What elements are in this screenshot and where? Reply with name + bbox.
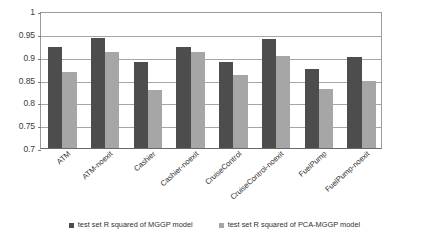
bar (319, 89, 333, 148)
bar (305, 69, 319, 148)
legend-label: test set R squared of MGGP model (78, 221, 193, 228)
x-axis-label: ATM (55, 150, 71, 166)
square-marker-dark (69, 223, 74, 228)
bar-group (340, 13, 383, 148)
bar (148, 90, 162, 148)
bar (134, 62, 148, 148)
bar-group (84, 13, 127, 148)
y-tick-label: 0.8 (23, 99, 35, 108)
plot-wrapper: 10.950.90.850.80.750.7 ATMATM-noexitCash… (0, 0, 429, 165)
bar (347, 57, 361, 148)
bar (262, 39, 276, 148)
bar (219, 62, 233, 148)
y-tick-label: 0.75 (19, 122, 35, 131)
y-axis-tick-labels: 10.950.90.850.80.750.7 (0, 12, 38, 149)
y-tick-label: 1 (30, 8, 35, 17)
bar-group (41, 13, 84, 148)
bar (91, 38, 105, 148)
x-axis-label: FuelPump-noexit (324, 150, 371, 194)
bar (176, 47, 190, 148)
bar (191, 52, 205, 148)
bar (48, 47, 62, 148)
bar-group (212, 13, 255, 148)
x-axis-label: CruiseControl (203, 150, 242, 186)
legend-label: test set R squared of PCA-MGGP model (228, 221, 361, 228)
y-tick-label: 0.85 (19, 76, 35, 85)
bar (62, 72, 76, 148)
bar-group (255, 13, 298, 148)
bar (105, 52, 119, 148)
legend-item: test set R squared of PCA-MGGP model (219, 221, 361, 228)
x-axis-category-labels: ATMATM-noexitCashierCashier-noexitCruise… (40, 150, 382, 202)
legend-item: test set R squared of MGGP model (69, 221, 193, 228)
x-axis-label: Cashier (133, 150, 157, 173)
bar (276, 56, 290, 148)
y-tick-label: 0.7 (23, 145, 35, 154)
square-marker-light (219, 223, 224, 228)
bar-group (298, 13, 341, 148)
bar-group (127, 13, 170, 148)
x-axis-label: FuelPump (298, 150, 329, 179)
bar (233, 75, 247, 148)
x-axis-label: Cashier-noexit (159, 150, 200, 188)
plot-area (40, 12, 382, 149)
bars-layer (41, 13, 381, 148)
x-axis-label: ATM-noexit (81, 150, 114, 181)
y-tick-label: 0.9 (23, 53, 35, 62)
y-tick-label: 0.95 (19, 31, 35, 40)
bar-chart: 10.950.90.850.80.750.7 ATMATM-noexitCash… (0, 0, 429, 248)
bar (362, 81, 376, 148)
bar-group (169, 13, 212, 148)
chart-legend: test set R squared of MGGP modeltest set… (0, 216, 429, 234)
